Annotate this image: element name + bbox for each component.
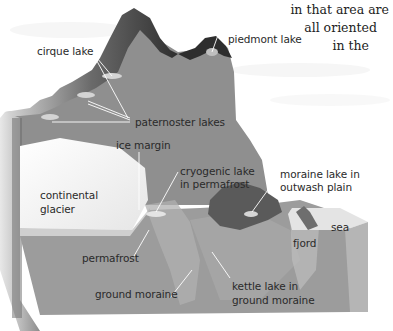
label-permafrost: permafrost (82, 252, 139, 265)
moraine-lake-water (244, 211, 258, 217)
caption-line-2: all oriented (304, 18, 377, 38)
label-moraine-lake-1: moraine lake in (280, 168, 360, 181)
label-ground-moraine: ground moraine (95, 288, 178, 301)
caption-line-3: in the (333, 36, 370, 56)
label-kettle-lake-1: kettle lake in (232, 280, 298, 293)
label-cirque-lake: cirque lake (37, 45, 93, 58)
label-kettle-lake-2: ground moraine (232, 294, 315, 307)
label-cryogenic-lake-1: cryogenic lake (180, 165, 255, 178)
label-sea: sea (331, 221, 349, 234)
glacial-landforms-diagram: in that area are all oriented in the cir… (0, 0, 393, 331)
caption-line-1: in that area are (290, 0, 389, 20)
label-fjord: fjord (293, 237, 316, 250)
label-continental-glacier-1: continental (40, 189, 98, 202)
label-cryogenic-lake-2: in permafrost (180, 178, 249, 191)
label-paternoster-lakes: paternoster lakes (135, 116, 225, 129)
label-moraine-lake-2: outwash plain (280, 181, 352, 194)
label-ice-margin: ice margin (116, 139, 171, 152)
label-continental-glacier-2: glacier (40, 203, 75, 216)
label-piedmont-lake: piedmont lake (228, 33, 302, 46)
